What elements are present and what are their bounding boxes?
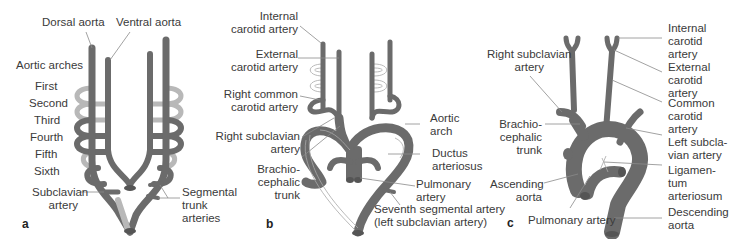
label-line: Subclavian xyxy=(32,186,88,198)
label-right-subclavian-artery-c: Right subclavian artery xyxy=(487,48,571,74)
label-line: Brachio- xyxy=(499,118,542,130)
label-line: cephalic xyxy=(258,176,300,188)
label-line: trunk xyxy=(516,144,542,156)
label-external-carotid-artery-c: External carotid artery xyxy=(668,61,710,100)
label-line: Internal xyxy=(668,22,706,34)
label-arch-fifth: Fifth xyxy=(35,148,57,161)
label-right-common-carotid-artery: Right common carotid artery xyxy=(220,88,298,114)
label-line: cephalic xyxy=(500,131,542,143)
label-internal-carotid-artery-c: Internal carotid artery xyxy=(668,22,706,61)
label-ascending-aorta: Ascending aorta xyxy=(490,178,542,204)
label-line: artery xyxy=(668,123,697,135)
label-line: aorta xyxy=(668,219,694,231)
label-line: artery xyxy=(514,61,543,73)
label-line: Right subclavian xyxy=(487,48,571,60)
label-arch-fourth: Fourth xyxy=(30,131,63,144)
label-line: trunk xyxy=(274,189,300,201)
label-line: trunk xyxy=(182,199,208,211)
panel-a-diagram xyxy=(77,32,181,234)
label-line: Common xyxy=(668,97,715,109)
label-line: arteries xyxy=(182,212,220,224)
label-descending-aorta: Descending aorta xyxy=(668,206,729,232)
label-segmental-trunk-arteries: Segmental trunk arteries xyxy=(182,186,237,225)
label-common-carotid-artery-c: Common carotid artery xyxy=(668,97,715,136)
label-line: artery xyxy=(416,191,445,203)
label-ventral-aorta: Ventral aorta xyxy=(116,16,181,29)
label-subclavian-artery: Subclavian artery xyxy=(32,186,78,212)
label-line: arteriosus xyxy=(432,160,483,172)
label-seventh-segmental-artery: Seventh segmental artery (left subclavia… xyxy=(374,203,505,229)
label-right-subclavian-artery: Right subclavian artery xyxy=(210,130,300,156)
label-ductus-arteriosus: Ductus arteriosus xyxy=(432,147,483,173)
label-line: arteriosum xyxy=(668,190,722,202)
label-line: Right common xyxy=(224,88,298,100)
label-pulmonary-artery: Pulmonary artery xyxy=(416,178,471,204)
label-line: carotid xyxy=(668,35,703,47)
label-line: carotid xyxy=(668,74,703,86)
label-dorsal-aorta: Dorsal aorta xyxy=(42,16,105,29)
label-ligamentum-arteriosum: Ligamen- tum arteriosum xyxy=(668,164,722,203)
label-line: carotid artery xyxy=(231,23,298,35)
label-line: Segmental xyxy=(182,186,237,198)
label-line: Ductus xyxy=(432,147,468,159)
label-pulmonary-artery-c: Pulmonary artery xyxy=(528,214,616,227)
label-arch-sixth: Sixth xyxy=(34,165,60,178)
label-line: aorta xyxy=(516,191,542,203)
label-arch-first: First xyxy=(35,80,57,93)
label-line: Aortic xyxy=(430,112,459,124)
label-arch-second: Second xyxy=(29,97,68,110)
label-line: artery xyxy=(49,199,78,211)
label-line: External xyxy=(256,48,298,60)
label-line: artery xyxy=(668,48,697,60)
label-line: Ascending xyxy=(490,178,544,190)
label-line: arch xyxy=(430,125,452,137)
label-line: Left subcla- xyxy=(668,136,727,148)
label-internal-carotid-artery: Internal carotid artery xyxy=(220,10,298,36)
label-aortic-arch: Aortic arch xyxy=(430,112,459,138)
label-line: artery xyxy=(271,143,300,155)
label-brachiocephalic-trunk: Brachio- cephalic trunk xyxy=(250,163,300,202)
label-line: Right subclavian xyxy=(216,130,300,142)
label-external-carotid-artery: External carotid artery xyxy=(220,48,298,74)
label-line: Descending xyxy=(668,206,729,218)
label-line: tum xyxy=(668,177,687,189)
label-line: carotid xyxy=(668,110,703,122)
label-arch-third: Third xyxy=(34,114,60,127)
panel-letter-c: c xyxy=(507,216,514,230)
label-line: carotid artery xyxy=(231,61,298,73)
label-line: Brachio- xyxy=(257,163,300,175)
label-left-subclavian-artery-c: Left subcla- vian artery xyxy=(668,136,727,162)
label-brachiocephalic-trunk-c: Brachio- cephalic trunk xyxy=(490,118,542,157)
label-line: Ligamen- xyxy=(668,164,716,176)
label-line: vian artery xyxy=(668,149,722,161)
label-aortic-arches: Aortic arches xyxy=(16,59,83,72)
label-line: carotid artery xyxy=(231,101,298,113)
label-line: External xyxy=(668,61,710,73)
label-line: Pulmonary xyxy=(416,178,471,190)
panel-letter-a: a xyxy=(22,217,29,231)
label-line: Internal xyxy=(260,10,298,22)
label-line: (left subclavian artery) xyxy=(374,216,487,228)
panel-letter-b: b xyxy=(266,217,273,231)
label-line: Seventh segmental artery xyxy=(374,203,505,215)
